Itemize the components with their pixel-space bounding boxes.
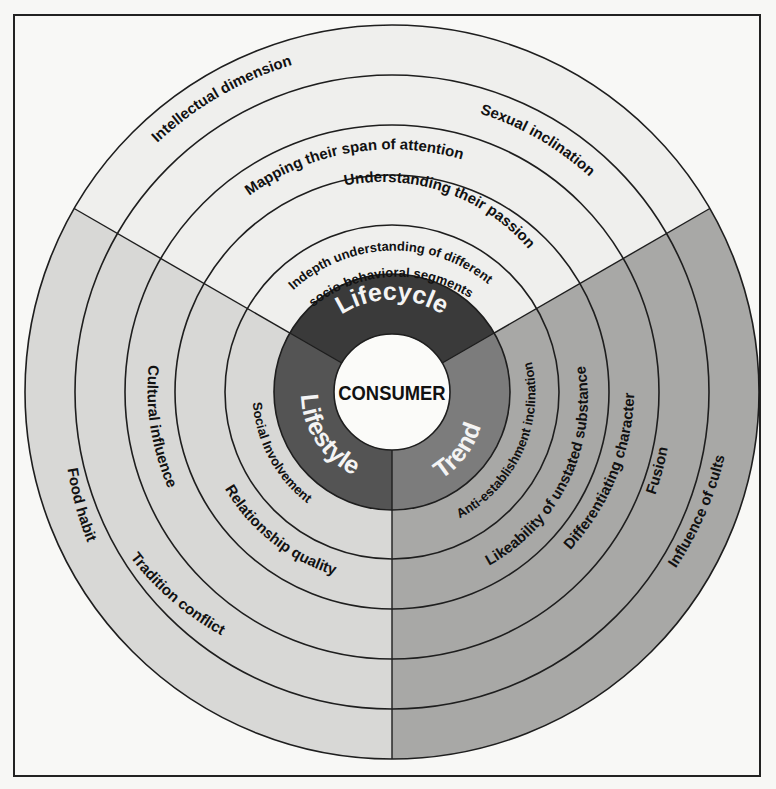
consumer-radial-diagram: CONSUMER Lifecycle Lifestyle Trend Intel… [0,0,776,789]
center-label: CONSUMER [338,382,445,404]
